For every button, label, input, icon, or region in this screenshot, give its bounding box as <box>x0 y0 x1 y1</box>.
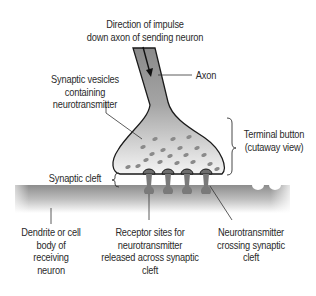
label-axon: Axon <box>188 69 223 82</box>
label-line: Synaptic cleft <box>40 172 110 185</box>
label-line: Direction of impulse <box>79 18 211 31</box>
label-line: Terminal button <box>237 128 311 141</box>
label-line: neurotransmitter <box>97 239 203 252</box>
label-line: Receptor sites for <box>97 226 203 239</box>
label-line: cleft <box>97 264 203 277</box>
label-synaptic-vesicles: Synaptic vesicles containing neurotransm… <box>37 73 134 111</box>
label-terminal-button: Terminal button (cutaway view) <box>237 128 311 153</box>
label-synaptic-cleft: Synaptic cleft <box>40 172 110 185</box>
label-line: receiving <box>15 251 87 264</box>
label-line: down axon of sending neuron <box>79 31 211 44</box>
label-receptor-sites: Receptor sites for neurotransmitter rele… <box>97 226 203 276</box>
label-line: body of <box>15 239 87 252</box>
label-line: Neurotransmitter <box>211 226 290 239</box>
label-line: crossing synaptic <box>211 239 290 252</box>
label-line: containing <box>37 86 134 99</box>
label-line: cleft <box>211 251 290 264</box>
label-line: (cutaway view) <box>237 141 311 154</box>
label-line: Axon <box>188 69 223 82</box>
label-line: released across synaptic <box>97 251 203 264</box>
label-line: neurotransmitter <box>37 98 134 111</box>
label-line: neuron <box>15 264 87 277</box>
label-direction-of-impulse: Direction of impulse down axon of sendin… <box>79 18 211 43</box>
terminal-brace <box>227 118 236 175</box>
label-line: Dendrite or cell <box>15 226 87 239</box>
label-neurotransmitter-crossing: Neurotransmitter crossing synaptic cleft <box>211 226 290 264</box>
cleft-brace <box>112 173 119 187</box>
label-line: Synaptic vesicles <box>37 73 134 86</box>
label-dendrite: Dendrite or cell body of receiving neuro… <box>15 226 87 276</box>
